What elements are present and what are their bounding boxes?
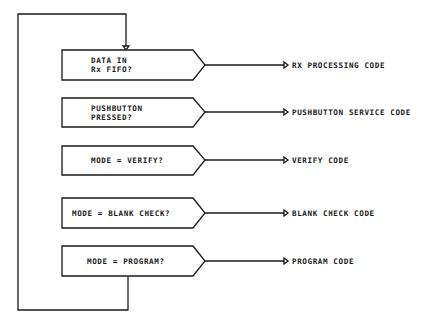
arrow-head-icon <box>284 62 288 68</box>
decision-label-pushbutton: PUSHBUTTON PRESSED? <box>91 104 143 122</box>
arrow-head-icon <box>284 109 288 115</box>
target-label-blank-check: BLANK CHECK CODE <box>292 209 375 218</box>
decision-label-blank-check: MODE = BLANK CHECK? <box>72 209 170 218</box>
arrow-head-icon <box>284 157 288 163</box>
target-label-pushbutton-service: PUSHBUTTON SERVICE CODE <box>292 108 411 117</box>
flowchart-canvas <box>0 0 447 326</box>
decision-line-2: Rx FIFO? <box>91 65 132 74</box>
target-label-program: PROGRAM CODE <box>292 257 354 266</box>
arrow-head-icon <box>284 210 288 216</box>
decision-box-rx-fifo <box>62 50 205 80</box>
decision-line-1: PUSHBUTTON <box>91 104 143 113</box>
target-label-verify: VERIFY CODE <box>292 156 349 165</box>
decision-line-2: PRESSED? <box>91 113 132 122</box>
decision-line-1: DATA IN <box>91 56 127 65</box>
arrow-head-icon <box>284 258 288 264</box>
target-label-rx-processing: RX PROCESSING CODE <box>292 61 385 70</box>
decision-label-rx-fifo: DATA IN Rx FIFO? <box>91 56 132 74</box>
decision-label-program: MODE = PROGRAM? <box>87 257 165 266</box>
decision-label-verify: MODE = VERIFY? <box>91 156 163 165</box>
